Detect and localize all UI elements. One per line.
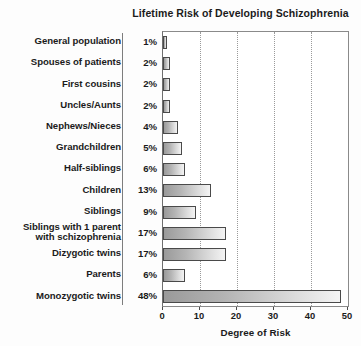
- category-label: Nephews/Nieces: [2, 116, 121, 137]
- category-label: Dizygotic twins: [2, 243, 121, 264]
- value-label: 2%: [125, 73, 157, 94]
- category-label: Grandchildren: [2, 137, 121, 158]
- bar: [163, 57, 170, 70]
- value-label: 2%: [125, 95, 157, 116]
- category-label: Parents: [2, 264, 121, 285]
- x-axis-title: Degree of Risk: [162, 327, 349, 338]
- bar-slot: [163, 223, 348, 244]
- bar-slot: [163, 138, 348, 159]
- bar-slot: [163, 159, 348, 180]
- value-label: 1%: [125, 31, 157, 52]
- bar-slot: [163, 32, 348, 53]
- x-tick-label: 40: [295, 310, 325, 321]
- category-label-line: with schizophrenia: [23, 232, 121, 242]
- value-label: 2%: [125, 52, 157, 73]
- x-tick-label: 30: [258, 310, 288, 321]
- bar: [163, 36, 167, 49]
- x-axis: 01020304050: [162, 307, 349, 323]
- bar-slot: [163, 74, 348, 95]
- bar-slot: [163, 202, 348, 223]
- chart-title: Lifetime Risk of Developing Schizophreni…: [120, 7, 361, 19]
- bar: [163, 290, 341, 303]
- bar-slot: [163, 117, 348, 138]
- category-label: Uncles/Aunts: [2, 95, 121, 116]
- bar-slot: [163, 96, 348, 117]
- bar: [163, 269, 185, 282]
- bar: [163, 248, 226, 261]
- value-label: 6%: [125, 264, 157, 285]
- category-label: Children: [2, 179, 121, 200]
- bar: [163, 227, 226, 240]
- value-label: 17%: [125, 222, 157, 243]
- bar: [163, 121, 178, 134]
- bar: [163, 100, 170, 113]
- category-label: First cousins: [2, 73, 121, 94]
- bar: [163, 142, 182, 155]
- value-label: 5%: [125, 137, 157, 158]
- value-label: 13%: [125, 179, 157, 200]
- value-label: 48%: [125, 285, 157, 306]
- bar: [163, 184, 211, 197]
- bar: [163, 78, 170, 91]
- category-label: Spouses of patients: [2, 52, 121, 73]
- x-tick-label: 50: [332, 310, 361, 321]
- category-label: Siblings: [2, 201, 121, 222]
- chart-figure: Lifetime Risk of Developing Schizophreni…: [0, 0, 361, 346]
- bar-slot: [163, 265, 348, 286]
- x-tick-label: 20: [221, 310, 251, 321]
- value-label: 17%: [125, 243, 157, 264]
- x-tick-label: 0: [147, 310, 177, 321]
- category-label-wrap: Siblings with 1 parentwith schizophrenia: [23, 222, 121, 243]
- category-label: Half-siblings: [2, 158, 121, 179]
- value-label: 4%: [125, 116, 157, 137]
- category-label: General population: [2, 31, 121, 52]
- value-label: 9%: [125, 201, 157, 222]
- value-label: 6%: [125, 158, 157, 179]
- bar-slot: [163, 53, 348, 74]
- category-label: Siblings with 1 parentwith schizophrenia: [2, 222, 121, 243]
- bar: [163, 206, 196, 219]
- bar-slot: [163, 244, 348, 265]
- x-tick-label: 10: [184, 310, 214, 321]
- plot-area: [162, 31, 349, 307]
- bar-slot: [163, 286, 348, 307]
- bar-slot: [163, 180, 348, 201]
- bar: [163, 163, 185, 176]
- category-label: Monozygotic twins: [2, 285, 121, 306]
- label-column-separator: [122, 33, 123, 305]
